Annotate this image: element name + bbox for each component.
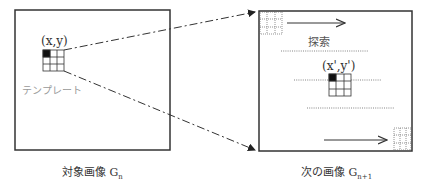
search-start-template (260, 12, 282, 34)
next-image-caption: 次の画像 Gn+1 (301, 163, 372, 181)
target-image-frame (15, 10, 170, 150)
caption-sub: n (118, 173, 123, 181)
template-coord-label: (x,y) (41, 34, 68, 48)
search-label: 探索 (308, 33, 330, 49)
matched-template-grid (329, 74, 351, 96)
target-image-caption: 対象画像 Gn (62, 163, 123, 181)
mapping-line-top (64, 12, 255, 50)
mapping-line-bottom (64, 71, 255, 150)
template-label: テンプレート (22, 82, 82, 97)
match-coord-label: (x',y') (322, 59, 355, 73)
search-end-template (394, 128, 411, 150)
caption-text: 対象画像 G (62, 166, 118, 179)
caption-sub: n+1 (357, 173, 372, 181)
template-grid (43, 50, 64, 71)
caption-text: 次の画像 G (301, 166, 357, 179)
